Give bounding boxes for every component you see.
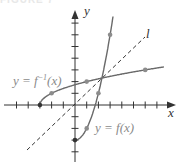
- data-point-dot: [73, 138, 78, 143]
- label-x-axis: x: [167, 105, 174, 120]
- label-line-l: l: [146, 26, 150, 41]
- label-y-axis: y: [82, 3, 90, 18]
- data-point-dot: [108, 33, 113, 38]
- y-axis-arrow-icon: [72, 10, 79, 19]
- label-f-inverse: y = f−1(x): [11, 73, 62, 88]
- data-point-dot: [143, 68, 148, 73]
- function-inverse-graph: y = f−1(x) y = f(x) l x y: [0, 0, 183, 166]
- data-point-dot: [84, 79, 89, 84]
- x-axis: [4, 102, 176, 109]
- label-f: y = f(x): [93, 120, 134, 135]
- data-point-dot: [96, 91, 101, 96]
- data-point-dot: [84, 126, 89, 131]
- data-point-dot: [49, 91, 54, 96]
- data-point-dot: [38, 103, 43, 108]
